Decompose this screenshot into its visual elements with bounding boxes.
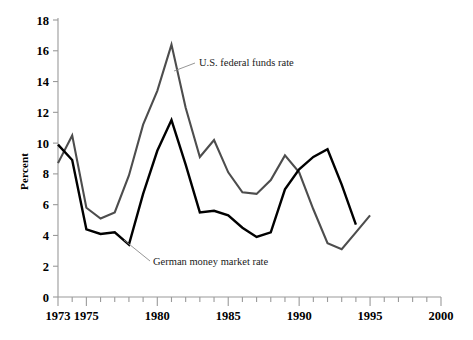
line-chart-plot: 024681012141618 197319751980198519901995… [0,0,473,340]
y-axis-tick-label: 14 [37,75,50,89]
y-axis-tick-label: 2 [43,260,49,274]
x-axis-tick-label: 2000 [429,309,454,323]
x-axis-tick-label: 1985 [216,309,241,323]
x-axis: 1973197519801985199019952000 [46,297,454,323]
data-series-group [58,45,370,250]
x-axis-tick-label: 1975 [74,309,99,323]
annotation-label: German money market rate [153,256,268,267]
y-axis: 024681012141618 [37,14,59,305]
chart-container: Percent 024681012141618 1973197519801985… [0,0,473,340]
y-axis-tick-label: 6 [43,198,49,212]
series-line [58,45,370,250]
y-axis-tick-label: 10 [37,137,50,151]
annotations-group: U.S. federal funds rateGerman money mark… [124,57,294,267]
y-axis-tick-label: 12 [37,106,50,120]
series-line [58,120,356,245]
x-axis-tick-label: 1990 [287,309,312,323]
y-axis-tick-label: 4 [43,229,50,243]
y-axis-tick-label: 18 [37,14,50,28]
x-axis-tick-label: 1995 [358,309,383,323]
y-axis-tick-label: 16 [37,44,50,58]
annotation-leader-line [124,240,150,261]
y-axis-tick-label: 0 [43,291,49,305]
x-axis-tick-label: 1980 [145,309,170,323]
annotation-label: U.S. federal funds rate [199,57,294,68]
x-axis-tick-label: 1973 [46,309,71,323]
y-axis-tick-label: 8 [43,167,49,181]
